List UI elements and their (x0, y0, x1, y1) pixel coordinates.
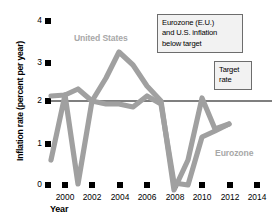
x-axis-title: Year (50, 204, 68, 214)
series-label-eurozone: Eurozone (215, 148, 253, 158)
inflation-rate-chart: 4 3 2 1 0 2000 2002 2004 2006 2008 2010 … (0, 0, 280, 224)
x-tick-label-2004: 2004 (106, 192, 134, 202)
annotation-below-target-line-3: below target (162, 39, 238, 49)
annotation-target-rate: Target rate (214, 61, 252, 90)
y-tick-label-0: 0 (30, 179, 42, 189)
y-tick-label-2: 2 (30, 95, 42, 105)
x-axis-ticks (62, 182, 260, 188)
y-tick-label-1: 1 (30, 138, 42, 148)
x-tick-label-2000: 2000 (51, 192, 79, 202)
annotation-target-rate-line-1: Target (219, 65, 247, 75)
x-tick-label-2006: 2006 (133, 192, 161, 202)
x-tick-label-2012: 2012 (216, 192, 244, 202)
x-tick-label-2010: 2010 (188, 192, 216, 202)
y-axis-title: Inflation rate (percent per year) (15, 11, 25, 191)
y-tick-label-3: 3 (30, 57, 42, 67)
x-tick-label-2014: 2014 (243, 192, 271, 202)
annotation-below-target: Eurozone (E.U.) and U.S. inflation below… (157, 14, 243, 53)
x-tick-label-2002: 2002 (78, 192, 106, 202)
y-tick-label-4: 4 (30, 15, 42, 25)
y-axis-ticks (45, 18, 51, 188)
annotation-below-target-line-2: and U.S. inflation (162, 28, 238, 38)
series-line-united-states (51, 52, 229, 190)
x-tick-label-2008: 2008 (161, 192, 189, 202)
series-label-united-states: United States (74, 33, 128, 43)
annotation-target-rate-line-2: rate (219, 75, 247, 85)
annotation-below-target-line-1: Eurozone (E.U.) (162, 18, 238, 28)
